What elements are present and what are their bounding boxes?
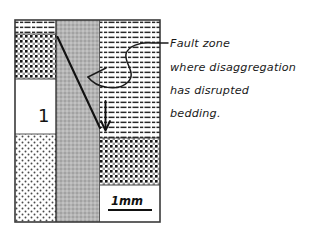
right-layer-coarse-dots [100,138,160,185]
annotation-text: Fault zone where disaggregation has disr… [170,37,296,120]
annotation-line-4: bedding. [170,107,221,120]
left-layer-coarse-dots [15,34,56,79]
fault-zone-diagram: 1 Fault zone where disaggregation has di… [0,0,319,235]
annotation-line-3: has disrupted [170,84,250,97]
left-layer-fine-stipple [15,134,56,222]
bed-label: 1 [38,105,49,126]
annotation-line-2: where disaggregation [170,61,296,74]
left-block [15,20,56,222]
left-layer-blank [15,79,56,134]
annotation-line-1: Fault zone [170,37,230,50]
left-layer-dashes [15,20,56,34]
scale-bar-label: 1mm [111,194,143,208]
